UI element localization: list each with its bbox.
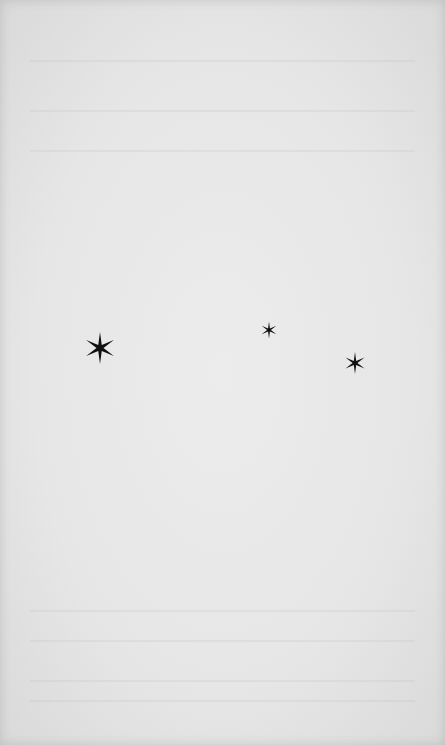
show-through-line <box>30 640 415 642</box>
star-right-icon <box>344 352 366 374</box>
show-through-line <box>30 60 415 62</box>
document-page <box>0 0 445 745</box>
show-through-line <box>30 610 415 612</box>
star-left-icon <box>84 332 116 364</box>
show-through-line <box>30 110 415 112</box>
show-through-line <box>30 680 415 682</box>
show-through-line <box>30 700 415 702</box>
star-middle-icon <box>261 322 278 339</box>
show-through-line <box>30 150 415 152</box>
